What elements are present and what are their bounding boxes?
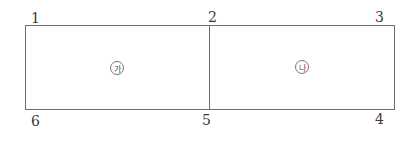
vertex-label-6: 6 xyxy=(31,114,40,128)
vertex-label-1: 1 xyxy=(31,11,40,25)
vertex-label-4: 4 xyxy=(375,112,384,126)
region-label-na: 나 xyxy=(295,60,309,74)
two-rectangle-diagram: 1 2 3 4 5 6 가 나 xyxy=(0,0,413,145)
vertex-label-3: 3 xyxy=(375,10,384,24)
vertex-label-5: 5 xyxy=(202,113,211,127)
vertex-label-2: 2 xyxy=(208,10,217,24)
region-label-ga: 가 xyxy=(110,61,124,75)
